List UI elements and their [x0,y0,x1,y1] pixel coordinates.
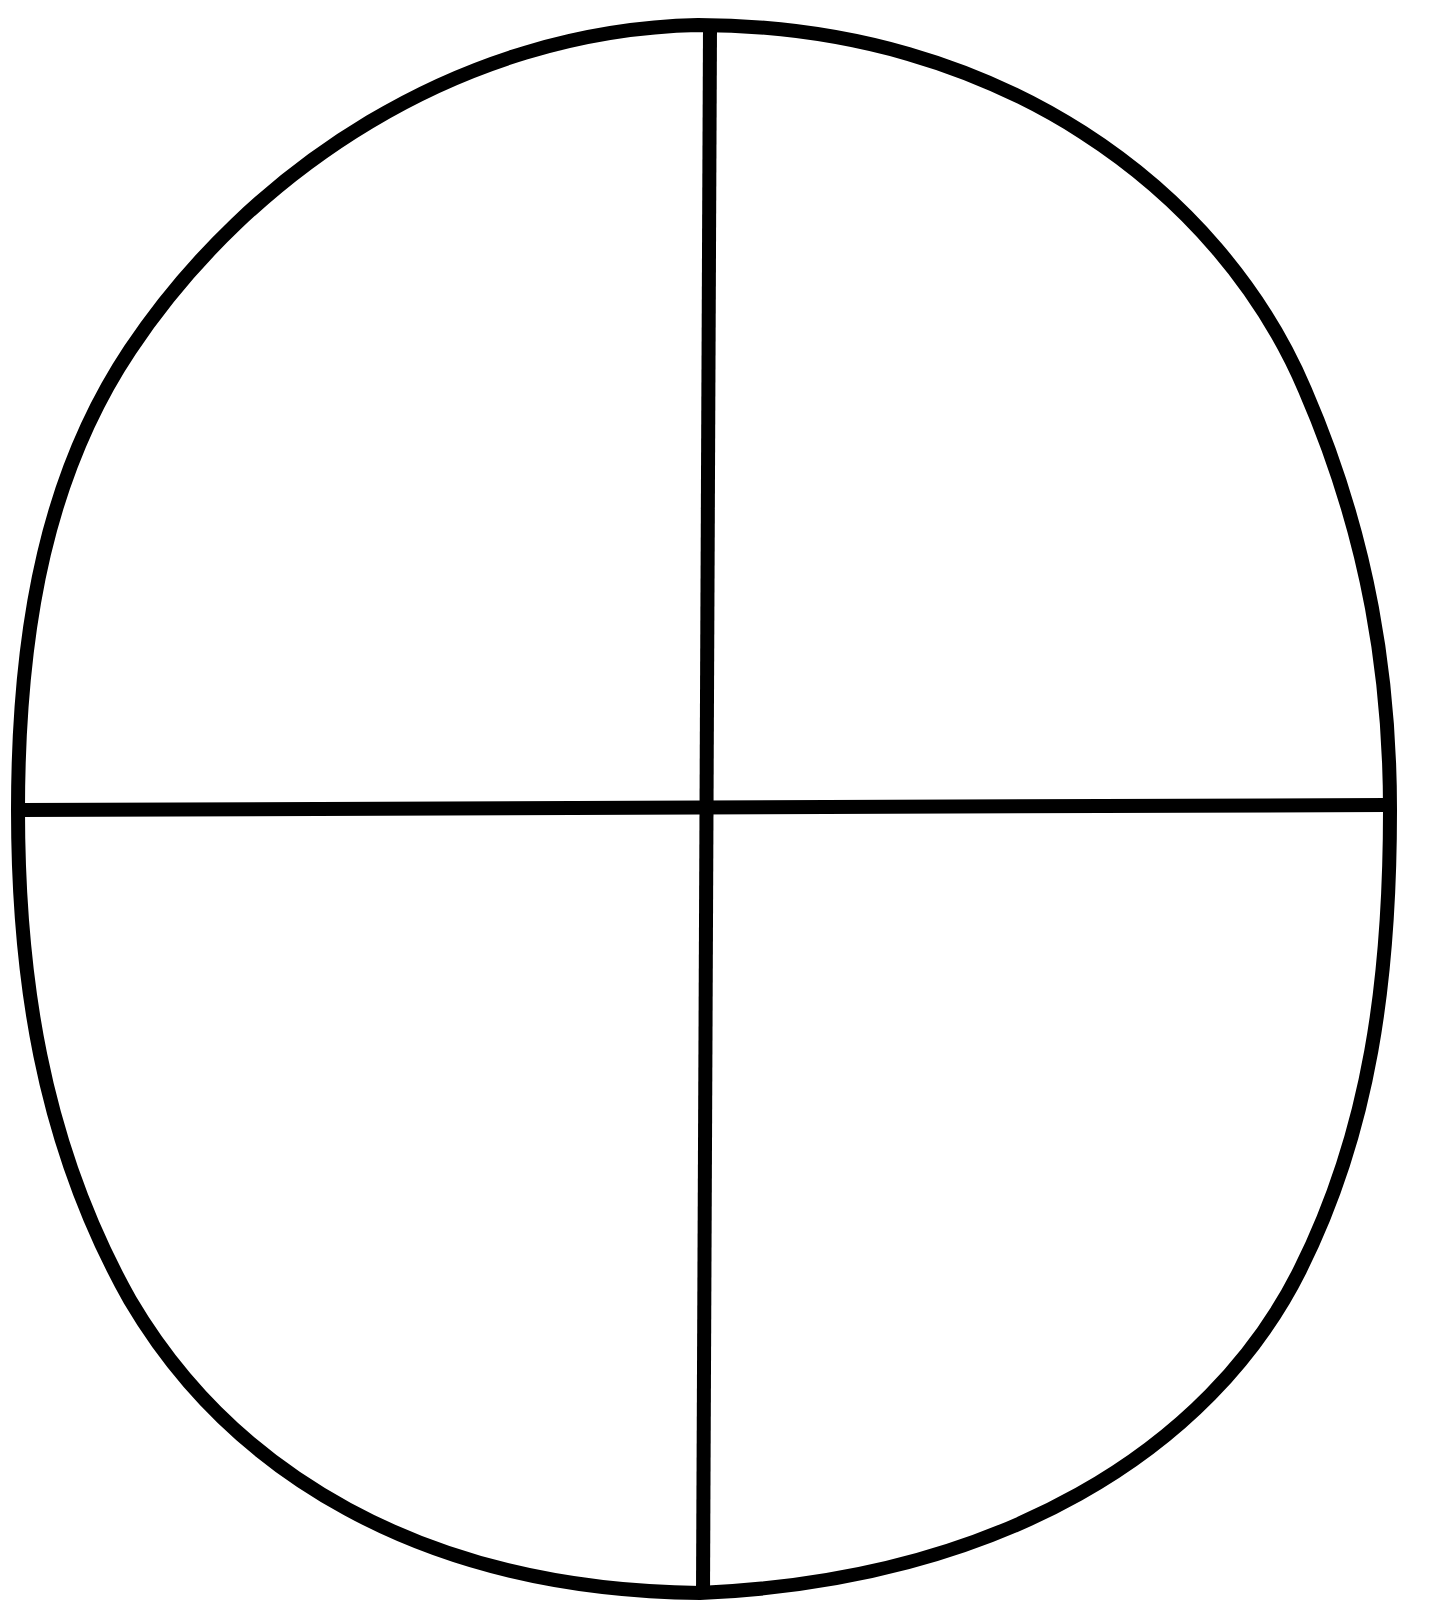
diagram-svg [0,0,1444,1601]
horizontal-divider-line [20,805,1386,810]
quadrant-diagram [0,0,1444,1601]
